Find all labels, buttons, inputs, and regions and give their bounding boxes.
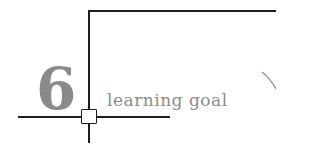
section-number: 6: [36, 60, 76, 118]
square-marker-icon: [81, 109, 97, 124]
section-label: learning goal: [107, 90, 228, 110]
top-border-line: [88, 10, 276, 12]
decorative-arc-icon: [258, 66, 276, 96]
